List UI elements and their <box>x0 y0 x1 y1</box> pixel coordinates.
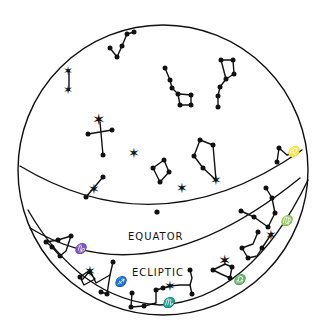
constellation-little-dipper <box>216 58 237 110</box>
svg-text:✶: ✶ <box>63 83 73 97</box>
constellation-orion-cross: ✶ <box>86 111 115 158</box>
constellation-gemini-stars: ✶ ✶ <box>63 64 73 97</box>
capricorn-symbol: ♑ <box>74 242 89 255</box>
ecliptic-line <box>30 178 300 255</box>
svg-text:✶: ✶ <box>63 64 73 78</box>
svg-text:✶: ✶ <box>84 264 96 279</box>
ecliptic-label: ECLIPTIC <box>132 267 184 278</box>
equator-label: EQUATOR <box>128 231 184 242</box>
constellation-auriga-line: ✶ <box>84 175 106 200</box>
libra-symbol: ♎ <box>233 273 248 286</box>
svg-text:✶: ✶ <box>92 111 105 128</box>
star-dot <box>154 209 159 214</box>
virgo-symbol: ♍ <box>280 214 295 227</box>
constellation-sagittarius: ✶ ♐ <box>78 260 130 297</box>
constellation-bootes: ✶ <box>192 138 223 189</box>
star-single: ✶ <box>128 146 140 161</box>
constellation-small-square <box>151 158 172 185</box>
sagittarius-symbol: ♐ <box>114 275 129 288</box>
svg-text:✶: ✶ <box>218 252 231 269</box>
constellation-capricorn: ♑ <box>44 234 90 259</box>
star-single-2: ✶ <box>176 181 188 196</box>
constellation-big-dipper <box>163 66 194 108</box>
svg-text:✶: ✶ <box>88 182 100 197</box>
equator-line <box>20 150 302 204</box>
svg-text:✶: ✶ <box>210 173 222 188</box>
svg-text:✶: ✶ <box>265 228 277 243</box>
celestial-sphere-diagram: EQUATOR ECLIPTIC ✶ ✶ ✶ ✶ ✶ <box>0 0 321 328</box>
svg-text:✶: ✶ <box>164 279 176 294</box>
scorpio-symbol: ♏ <box>162 296 177 309</box>
constellation-leo: ♌ <box>275 145 303 165</box>
constellation-virgo-area: ♍ <box>239 186 296 230</box>
